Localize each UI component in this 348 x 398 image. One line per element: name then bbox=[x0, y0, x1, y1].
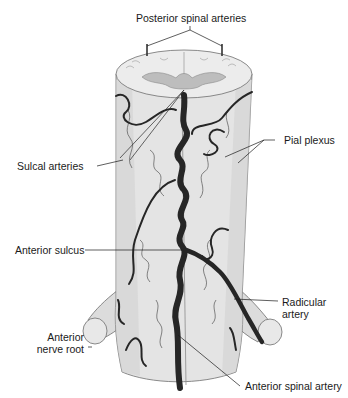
label-posterior-spinal-arteries: Posterior spinal arteries bbox=[136, 12, 246, 24]
label-radicular-artery: Radicular artery bbox=[282, 296, 326, 320]
label-anterior-nerve-root: Anterior nerve root bbox=[20, 331, 84, 355]
label-pial-plexus: Pial plexus bbox=[284, 134, 335, 146]
label-nerve-root-line2: nerve root bbox=[20, 343, 84, 355]
label-sulcal-arteries: Sulcal arteries bbox=[17, 160, 84, 172]
label-anterior-spinal-artery: Anterior spinal artery bbox=[245, 380, 342, 392]
label-radicular-line1: Radicular bbox=[282, 296, 326, 308]
cross-section bbox=[116, 50, 252, 98]
label-radicular-line2: artery bbox=[282, 308, 326, 320]
label-anterior-sulcus: Anterior sulcus bbox=[15, 244, 84, 256]
label-nerve-root-line1: Anterior bbox=[20, 331, 84, 343]
